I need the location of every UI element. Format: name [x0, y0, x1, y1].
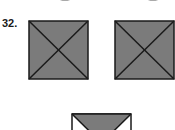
square-figure-1 — [28, 20, 89, 80]
partial-circle-left — [50, 0, 80, 4]
square-figure-2 — [114, 20, 175, 80]
question-number: 32. — [2, 17, 17, 29]
partial-circle-right — [138, 0, 168, 4]
square-figure-3 — [71, 113, 132, 130]
